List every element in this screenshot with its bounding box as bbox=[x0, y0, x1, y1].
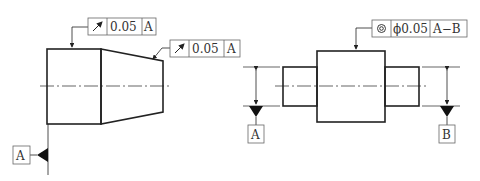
leader-line bbox=[356, 28, 372, 49]
datum-label: A bbox=[15, 149, 25, 163]
datum-ref: A bbox=[226, 42, 236, 56]
left-part: 0.05 A 0.05 A A bbox=[13, 18, 240, 175]
drawing-canvas: 0.05 A 0.05 A A bbox=[0, 0, 480, 181]
datum-triangle-icon bbox=[440, 106, 454, 117]
leader-line bbox=[72, 27, 88, 47]
tolerance-value: 0.05 bbox=[110, 20, 137, 34]
datum-label: A bbox=[250, 128, 260, 142]
datum-label: B bbox=[442, 128, 451, 142]
fcf-top-left: 0.05 A bbox=[72, 18, 156, 47]
left-shaft bbox=[283, 67, 317, 106]
datum-a-left: A bbox=[13, 124, 48, 175]
center-body bbox=[317, 51, 385, 122]
datum-a-right: A bbox=[248, 70, 264, 143]
tolerance-value: 0.05 bbox=[192, 42, 219, 56]
datum-ref: A bbox=[143, 20, 153, 34]
tolerance-value: ϕ0.05 bbox=[393, 22, 428, 36]
cone-section bbox=[101, 49, 163, 124]
datum-triangle-icon bbox=[37, 148, 48, 162]
datum-ref: A−B bbox=[432, 22, 461, 36]
right-shaft bbox=[385, 67, 419, 106]
cylinder-section bbox=[47, 49, 101, 124]
datum-triangle-icon bbox=[249, 106, 263, 117]
datum-b-right: B bbox=[439, 70, 455, 143]
fcf-concentricity: ϕ0.05 A−B bbox=[356, 20, 467, 49]
right-part: A B ϕ0.05 A−B bbox=[243, 20, 467, 143]
leader-line bbox=[153, 48, 170, 59]
fcf-cone: 0.05 A bbox=[153, 40, 240, 59]
